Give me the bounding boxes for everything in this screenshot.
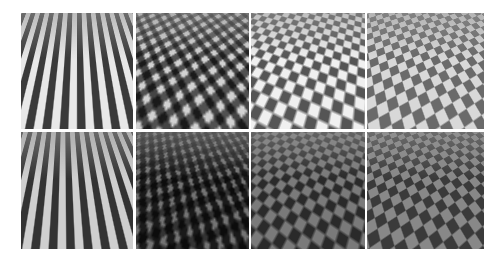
texture-tile-r1c3 bbox=[251, 13, 365, 129]
texture-tile-r1c1 bbox=[21, 13, 133, 129]
texture-tile-r1c2 bbox=[136, 13, 249, 129]
texture-tile-r2c1 bbox=[21, 132, 133, 249]
texture-tile-r1c4 bbox=[367, 13, 484, 129]
texture-tile-r2c3 bbox=[251, 132, 365, 249]
texture-tile-r2c2 bbox=[136, 132, 249, 249]
texture-grid bbox=[21, 13, 484, 249]
texture-tile-r2c4 bbox=[367, 132, 484, 249]
